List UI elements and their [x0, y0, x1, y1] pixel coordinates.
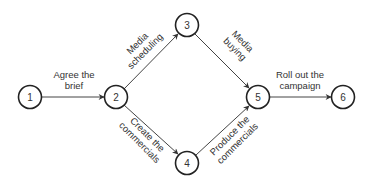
node-number: 3 [184, 20, 190, 31]
node-number: 4 [184, 158, 190, 169]
edge-label-line: Roll out the [276, 69, 324, 80]
node-number: 5 [255, 92, 261, 103]
node-5: 5 [247, 86, 270, 109]
edge-label-media-buying: Media buying [221, 27, 256, 62]
node-3: 3 [176, 14, 199, 37]
edge-label-media-scheduling: Media scheduling [117, 23, 165, 71]
edge-label-line: Agree the [53, 69, 94, 80]
edge-label-create-the-commercials: Create the commercials [117, 112, 170, 165]
edge-label-line: campaign [279, 80, 320, 91]
edge-label-agree-the-brief: Agree the brief [53, 69, 94, 91]
node-number: 6 [340, 92, 346, 103]
node-4: 4 [176, 152, 199, 175]
node-1: 1 [19, 86, 42, 109]
network-diagram: Agree the brief Media scheduling Create … [0, 0, 371, 190]
edge-label-line: brief [65, 80, 84, 91]
node-number: 2 [113, 92, 119, 103]
node-6: 6 [332, 86, 355, 109]
edge-label-roll-out-the-campaign: Roll out the campaign [276, 69, 324, 91]
node-2: 2 [105, 86, 128, 109]
node-number: 1 [27, 92, 33, 103]
